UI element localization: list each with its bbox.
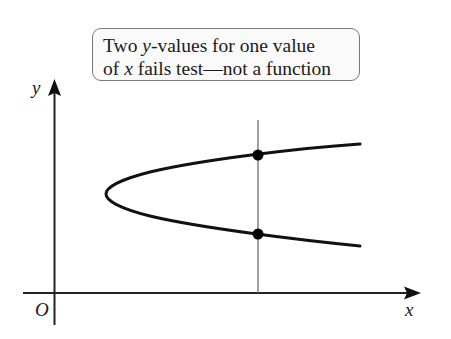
y-axis-label: y	[32, 78, 40, 97]
origin-label: O	[35, 300, 49, 319]
diagram-canvas	[0, 0, 451, 339]
x-axis-label: x	[405, 300, 413, 319]
intersection-point-upper	[253, 150, 264, 161]
parabola-curve	[106, 144, 360, 246]
intersection-point-lower	[253, 229, 264, 240]
